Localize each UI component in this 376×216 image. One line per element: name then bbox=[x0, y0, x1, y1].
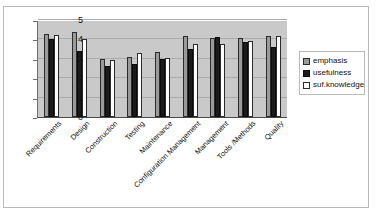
bar-knowledge bbox=[165, 58, 170, 117]
x-tick-label: Requirements bbox=[24, 119, 63, 158]
bar-knowledge bbox=[248, 41, 253, 117]
bar-group bbox=[266, 21, 281, 117]
y-tick-label: 1 bbox=[63, 94, 83, 103]
x-axis-labels: RequirementsDesignConstructionTestingMai… bbox=[37, 119, 287, 199]
y-tick-mark bbox=[33, 21, 37, 22]
y-tick-label: 4 bbox=[63, 35, 83, 44]
bar-knowledge bbox=[110, 60, 115, 117]
y-tick-mark bbox=[33, 79, 37, 80]
knowledge-swatch bbox=[303, 82, 310, 89]
bar-group bbox=[127, 21, 142, 117]
bar-group bbox=[183, 21, 198, 117]
bar-knowledge bbox=[276, 36, 281, 117]
bar-group bbox=[210, 21, 225, 117]
plot-wrapper: RequirementsDesignConstructionTestingMai… bbox=[4, 7, 370, 207]
y-tick-mark bbox=[33, 99, 37, 100]
bar-knowledge bbox=[137, 53, 142, 117]
legend-label: emphasis bbox=[313, 57, 347, 65]
bar-group bbox=[44, 21, 59, 117]
legend-item: emphasis bbox=[303, 55, 361, 67]
bar-group bbox=[238, 21, 253, 117]
y-tick-mark bbox=[33, 118, 37, 119]
y-tick-label: 0 bbox=[63, 113, 83, 122]
y-tick-mark bbox=[33, 40, 37, 41]
emphasis-swatch bbox=[303, 58, 310, 65]
legend-label: usefulness bbox=[313, 69, 351, 77]
bar-knowledge bbox=[193, 44, 198, 117]
legend-label: suf.knowledge bbox=[313, 81, 364, 89]
x-tick-label: Testing bbox=[124, 119, 147, 142]
legend-item: suf.knowledge bbox=[303, 79, 361, 91]
bar-group bbox=[155, 21, 170, 117]
chart-figure: RequirementsDesignConstructionTestingMai… bbox=[3, 6, 369, 208]
x-tick-label: Quality bbox=[263, 119, 286, 142]
bar-group bbox=[100, 21, 115, 117]
x-tick-label: Design bbox=[68, 119, 91, 142]
y-tick-label: 2 bbox=[63, 74, 83, 83]
y-tick-label: 3 bbox=[63, 55, 83, 64]
y-tick-mark bbox=[33, 60, 37, 61]
usefulness-swatch bbox=[303, 70, 310, 77]
legend-item: usefulness bbox=[303, 67, 361, 79]
bar-knowledge bbox=[220, 44, 225, 117]
chart-legend: emphasisusefulnesssuf.knowledge bbox=[299, 51, 365, 95]
y-tick-label: 5 bbox=[63, 16, 83, 25]
bar-knowledge bbox=[54, 35, 59, 117]
